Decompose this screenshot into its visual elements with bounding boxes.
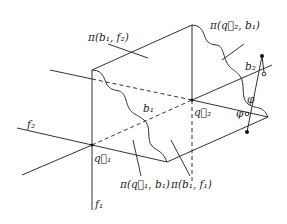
q2-point — [191, 99, 194, 102]
leader-pi-q1-b1 — [133, 140, 141, 176]
plane-line-upper-left — [50, 70, 92, 79]
label-f1: f₁ — [94, 198, 103, 210]
plane-line-upper-dashed — [92, 79, 192, 100]
diag-line-dashed — [92, 100, 192, 145]
leader-pi-b1-f1 — [171, 140, 190, 176]
label-b1: b₁ — [143, 102, 154, 114]
q1-point — [91, 144, 94, 147]
label-pi-b1-f1: π(b₁, f₁) — [170, 178, 212, 190]
b2-wavy-curve — [192, 25, 268, 117]
label-q1: q⃗₁ — [94, 152, 111, 164]
label-pi-q2-b1: π(q⃗₂, b₁) — [209, 19, 260, 31]
label-f2: f₂ — [26, 118, 35, 130]
label-b2: b₂ — [245, 60, 256, 72]
label-pi-b1-f2: π(b₁, f₂) — [87, 31, 129, 43]
leader-pi-q2-b1 — [222, 44, 244, 60]
front-bottom-edge — [167, 117, 268, 162]
rod-upper-joint — [262, 72, 266, 76]
label-q2: q⃗₂ — [194, 106, 211, 118]
label-phi-upper: φ — [247, 93, 255, 105]
diag-line-left — [22, 145, 92, 175]
rod-top-dot — [260, 54, 264, 58]
leader-pi-b1-f2 — [108, 44, 148, 58]
diag-line-right — [192, 65, 272, 100]
diagram-canvas: π(b₁, f₂) π(q⃗₂, b₁) b₁ b₂ q⃗₁ q⃗₂ f₁ f₂… — [0, 0, 287, 224]
rod-bottom-dot — [245, 130, 249, 134]
label-phi-lower: φ — [236, 107, 244, 119]
label-pi-q1-b1: π(q⃗₁, b₁) — [119, 178, 170, 190]
